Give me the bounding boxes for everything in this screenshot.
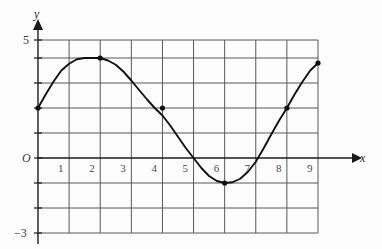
x-tick-label: 3 <box>120 163 126 174</box>
x-tick-label: 5 <box>183 163 189 174</box>
y-axis-label: y <box>34 8 39 20</box>
y-axis-min-label: −3 <box>14 227 27 239</box>
x-tick-label: 1 <box>58 163 64 174</box>
origin-label: O <box>22 152 31 164</box>
x-tick-label: 2 <box>89 163 95 174</box>
x-tick-label: 4 <box>151 163 157 174</box>
axes <box>33 19 362 244</box>
coordinate-plane <box>0 0 382 249</box>
x-tick-label: 6 <box>214 163 220 174</box>
graph-figure: 123456789 5 −3 O x y <box>0 0 382 249</box>
x-tick-label: 9 <box>307 163 313 174</box>
x-tick-label: 8 <box>276 163 282 174</box>
y-axis-max-label: 5 <box>23 34 29 46</box>
x-axis-label: x <box>360 152 365 164</box>
x-tick-label: 7 <box>245 163 251 174</box>
